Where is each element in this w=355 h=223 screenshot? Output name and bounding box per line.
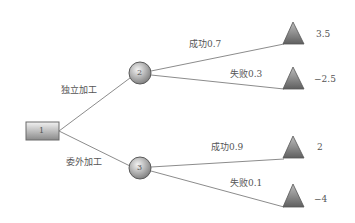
chance-node-2-label: 2 bbox=[137, 68, 142, 78]
decision-node-label: 1 bbox=[39, 126, 44, 136]
terminal-node-triangle bbox=[283, 136, 304, 158]
terminal-node-triangle bbox=[283, 22, 304, 44]
terminal-node-triangle bbox=[283, 67, 304, 89]
outcome-label: 失败0.1 bbox=[230, 178, 262, 188]
branch-label-independent: 独立加工 bbox=[61, 85, 97, 95]
branch-label-outsourced: 委外加工 bbox=[66, 157, 102, 167]
chance-node-3-label: 3 bbox=[137, 163, 142, 173]
payoff-value: −4 bbox=[314, 194, 327, 204]
outcome-label: 成功0.9 bbox=[211, 142, 243, 152]
outcome-label: 失败0.3 bbox=[230, 69, 262, 79]
terminal-node-triangle bbox=[283, 184, 304, 207]
payoff-value: 3.5 bbox=[316, 29, 330, 39]
decision-tree-diagram bbox=[0, 0, 355, 223]
payoff-value: −2.5 bbox=[314, 74, 336, 84]
branch-line-3-b bbox=[151, 171, 284, 207]
outcome-label: 成功0.7 bbox=[189, 39, 221, 49]
payoff-value: 2 bbox=[317, 142, 323, 152]
branch-line-2-b bbox=[151, 75, 284, 89]
branch-line-3-a bbox=[151, 159, 284, 167]
